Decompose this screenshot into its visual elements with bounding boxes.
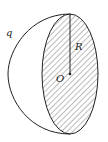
charge-label: q [6,27,12,38]
center-label: O [56,73,64,84]
radius-label: R [74,41,83,52]
hemisphere-diagram: q R O [0,0,108,142]
center-point [69,73,72,76]
